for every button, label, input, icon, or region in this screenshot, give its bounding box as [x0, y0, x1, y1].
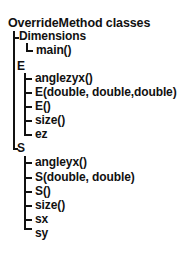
- member-ez[interactable]: ez: [35, 128, 47, 141]
- e-branch-line: [24, 120, 32, 122]
- s-branch-line: [24, 162, 32, 164]
- member-angleyx[interactable]: angleyx(): [35, 156, 87, 169]
- member-s-constructor-0[interactable]: S(): [35, 185, 51, 198]
- class-node-s[interactable]: S: [17, 142, 25, 155]
- e-branch-line: [24, 78, 32, 80]
- dimensions-child-hline: [26, 50, 33, 52]
- root-connector-line: [13, 31, 15, 149]
- member-anglezyx[interactable]: anglezyx(): [35, 72, 93, 85]
- member-s-constructor-2[interactable]: S(double, double): [35, 171, 135, 184]
- e-branch-line: [24, 92, 32, 94]
- member-e-constructor-0[interactable]: E(): [35, 100, 51, 113]
- member-sy[interactable]: sy: [35, 227, 48, 240]
- e-branch-line: [24, 134, 32, 136]
- member-e-size[interactable]: size(): [35, 114, 65, 127]
- member-sx[interactable]: sx: [35, 213, 48, 226]
- class-node-dimensions[interactable]: Dimensions: [19, 30, 86, 43]
- s-branch-line: [24, 177, 32, 179]
- s-branch-line: [24, 191, 32, 193]
- e-children-vline: [24, 73, 26, 135]
- s-branch-line: [24, 205, 32, 207]
- e-branch-line: [24, 106, 32, 108]
- s-branch-line: [24, 219, 32, 221]
- class-node-e[interactable]: E: [17, 60, 25, 73]
- member-e-constructor-3[interactable]: E(double, double,double): [35, 86, 177, 99]
- s-branch-line: [24, 228, 32, 230]
- member-main[interactable]: main(): [36, 44, 71, 57]
- member-s-size[interactable]: size(): [35, 199, 65, 212]
